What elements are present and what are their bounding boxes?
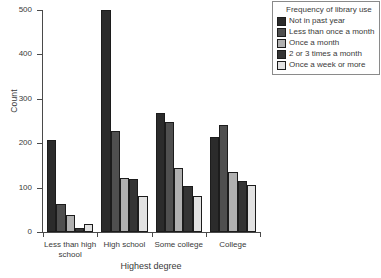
bar (66, 215, 75, 232)
y-tick (37, 54, 42, 55)
x-tick (260, 232, 261, 237)
y-tick-label: 200 (0, 139, 32, 147)
y-tick-label: 300 (0, 95, 32, 103)
plot-area (43, 10, 260, 232)
x-tick (206, 232, 207, 237)
bar-group (43, 10, 97, 232)
y-tick (37, 143, 42, 144)
bar (183, 186, 192, 232)
legend-item[interactable]: Not in past year (276, 16, 377, 26)
bar (219, 125, 228, 232)
bar-group (152, 10, 206, 232)
legend-item[interactable]: Once a week or more (276, 60, 377, 70)
y-tick-label: 500 (0, 6, 32, 14)
legend-swatch (277, 50, 286, 59)
legend-item-label: Once a week or more (289, 60, 365, 70)
y-tick (37, 10, 42, 11)
legend-item[interactable]: 2 or 3 times a month (276, 49, 377, 59)
x-tick (152, 232, 153, 237)
y-tick (37, 232, 42, 233)
y-tick (37, 99, 42, 100)
bar (174, 168, 183, 232)
x-axis-title: Highest degree (42, 261, 260, 271)
legend-item-label: Once a month (289, 38, 339, 48)
bar-chart-figure: Count 0100200300400500 Less than high sc… (0, 0, 381, 278)
bar (247, 185, 256, 232)
legend: Frequency of library use Not in past yea… (272, 1, 380, 75)
y-tick-label: 0 (0, 228, 32, 236)
bar (84, 224, 93, 232)
x-tick-label: College (198, 240, 268, 250)
legend-swatch (277, 17, 286, 26)
legend-title: Frequency of library use (286, 5, 377, 14)
legend-item-label: Not in past year (289, 16, 345, 26)
x-tick (97, 232, 98, 237)
legend-items: Not in past yearLess than once a monthOn… (276, 16, 377, 70)
bar (56, 204, 65, 232)
bar (165, 122, 174, 232)
legend-item-label: 2 or 3 times a month (289, 49, 362, 59)
bar (228, 172, 237, 232)
bar (156, 113, 165, 232)
bar-group (97, 10, 151, 232)
legend-swatch (277, 28, 286, 37)
legend-swatch (277, 39, 286, 48)
bar (210, 137, 219, 232)
x-tick (43, 232, 44, 237)
legend-swatch (277, 61, 286, 70)
bar (120, 178, 129, 232)
bar (138, 196, 147, 232)
bar (193, 196, 202, 232)
bar (75, 228, 84, 232)
y-tick-label: 100 (0, 184, 32, 192)
bar (111, 131, 120, 232)
bar-group (206, 10, 260, 232)
legend-item-label: Less than once a month (289, 27, 374, 37)
legend-item[interactable]: Less than once a month (276, 27, 377, 37)
bar (238, 181, 247, 232)
bar (129, 179, 138, 232)
y-tick-label: 400 (0, 50, 32, 58)
bar (101, 10, 110, 232)
bar (47, 140, 56, 232)
legend-item[interactable]: Once a month (276, 38, 377, 48)
y-tick (37, 188, 42, 189)
